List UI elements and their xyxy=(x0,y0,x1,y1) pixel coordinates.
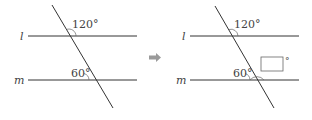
label-l: l xyxy=(182,30,186,43)
right-figure: l m 120° 60° ° xyxy=(176,6,299,108)
degree-symbol: ° xyxy=(285,56,290,66)
angle-60-label: 60° xyxy=(233,67,253,80)
angle-120-label: 120° xyxy=(234,18,261,31)
label-l: l xyxy=(20,30,24,43)
answer-blank-box xyxy=(261,57,283,71)
parallel-lines-diagram: l m 120° 60° l m 120° 60° ° xyxy=(0,0,312,120)
left-figure: l m 120° 60° xyxy=(14,5,137,108)
angle-60-label: 60° xyxy=(71,67,91,80)
angle-120-label: 120° xyxy=(72,18,99,31)
label-m: m xyxy=(14,74,24,87)
right-arrow-icon xyxy=(149,53,161,62)
label-m: m xyxy=(176,74,186,87)
